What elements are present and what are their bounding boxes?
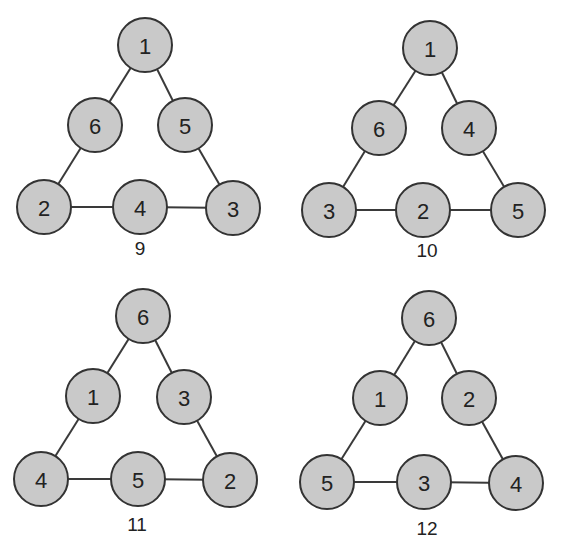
diagram-caption: 12 bbox=[416, 518, 437, 539]
diagram-caption: 11 bbox=[127, 514, 147, 535]
node-label: 3 bbox=[418, 471, 430, 496]
diagram-nodes: 165243 bbox=[17, 18, 260, 235]
node-label: 6 bbox=[89, 114, 101, 139]
node-label: 4 bbox=[463, 117, 475, 142]
node-label: 1 bbox=[374, 387, 386, 412]
node-label: 4 bbox=[134, 196, 146, 221]
diagram-12: 612534 12 bbox=[300, 291, 543, 539]
node-label: 5 bbox=[321, 471, 333, 496]
node-label: 2 bbox=[38, 196, 50, 221]
triangle-diagrams-canvas: 165243 9 164325 10 613452 11 612534 12 bbox=[0, 0, 571, 558]
node-label: 4 bbox=[510, 472, 522, 497]
node-label: 2 bbox=[417, 199, 429, 224]
diagram-11: 613452 11 bbox=[14, 289, 257, 535]
diagram-nodes: 613452 bbox=[14, 289, 257, 507]
diagram-10: 164325 10 bbox=[302, 21, 545, 261]
diagram-nodes: 164325 bbox=[302, 21, 545, 237]
node-label: 3 bbox=[323, 199, 335, 224]
node-label: 2 bbox=[463, 387, 475, 412]
diagram-caption: 10 bbox=[416, 240, 437, 261]
node-label: 1 bbox=[87, 385, 99, 410]
node-label: 2 bbox=[224, 469, 236, 494]
diagram-nodes: 612534 bbox=[300, 291, 543, 510]
node-label: 6 bbox=[423, 307, 435, 332]
node-label: 4 bbox=[35, 468, 47, 493]
node-label: 6 bbox=[373, 117, 385, 142]
node-label: 3 bbox=[178, 386, 190, 411]
node-label: 5 bbox=[512, 199, 524, 224]
node-label: 5 bbox=[132, 468, 144, 493]
diagram-caption: 9 bbox=[135, 238, 146, 259]
node-label: 6 bbox=[137, 305, 149, 330]
node-label: 1 bbox=[139, 34, 151, 59]
node-label: 5 bbox=[179, 114, 191, 139]
node-label: 1 bbox=[424, 37, 436, 62]
diagram-9: 165243 9 bbox=[17, 18, 260, 259]
node-label: 3 bbox=[227, 197, 239, 222]
